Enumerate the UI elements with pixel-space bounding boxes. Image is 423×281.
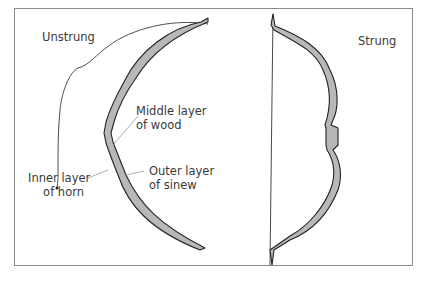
middle-layer-label: Middle layer of wood <box>136 104 207 132</box>
inner-layer-label: Inner layer of horn <box>28 171 84 199</box>
outer-layer-label: Outer layer of sinew <box>149 164 214 192</box>
strung-bow <box>270 14 340 265</box>
unstrung-bow <box>56 18 209 250</box>
unstrung-label: Unstrung <box>42 30 95 44</box>
leader-outer <box>126 171 144 175</box>
leader-inner <box>88 170 108 178</box>
leader-middle <box>113 116 138 145</box>
strung-label: Strung <box>358 34 396 48</box>
